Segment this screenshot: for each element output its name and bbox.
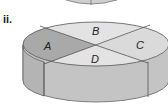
section-label-c: C [136, 39, 144, 51]
partial-previous-cylinder [66, 0, 117, 5]
section-label-b: B [92, 25, 99, 37]
cylinder-diagram: ii. B [0, 0, 168, 109]
section-label-d: D [91, 53, 99, 65]
section-label-a: A [43, 40, 51, 52]
figure-label: ii. [3, 13, 12, 25]
cylinder-graphic: B A C D [0, 0, 168, 109]
